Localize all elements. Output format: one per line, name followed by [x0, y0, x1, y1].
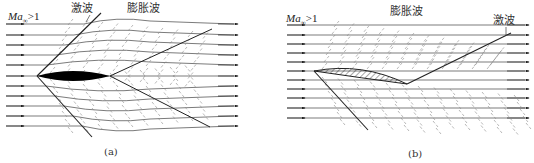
expansion-wave-dash — [143, 68, 148, 74]
expansion-wave-label-a: 膨胀波 — [127, 3, 160, 14]
expansion-wave-dash — [134, 51, 139, 57]
expansion-wave-dash — [386, 83, 391, 89]
expansion-wave-dash — [194, 90, 199, 96]
expansion-wave-dash — [424, 100, 429, 106]
expansion-wave-dash — [68, 127, 73, 133]
streamline — [6, 116, 234, 121]
expansion-wave-dash — [349, 23, 354, 29]
expansion-wave-dash — [104, 48, 109, 54]
streamline — [6, 106, 234, 111]
expansion-wave-dash — [173, 117, 178, 123]
expansion-wave-dash — [86, 54, 91, 60]
expansion-wave-dash — [86, 92, 91, 98]
expansion-wave-dash — [116, 89, 121, 95]
expansion-wave-dash — [173, 30, 178, 36]
expansion-wave-dash — [394, 31, 399, 37]
expansion-wave-dash — [158, 70, 163, 76]
expansion-wave-dash — [200, 41, 205, 47]
expansion-wave-dash — [125, 72, 130, 78]
expansion-wave-dash — [466, 91, 471, 97]
expansion-wave-dash — [203, 114, 208, 120]
expansion-wave-dash — [411, 106, 416, 112]
expansion-wave-dash — [188, 74, 193, 80]
expansion-wave-dash — [191, 65, 196, 71]
expansion-wave-dash — [478, 54, 483, 60]
expansion-wave-dash — [382, 110, 387, 116]
expansion-wave-dash — [449, 123, 454, 129]
expansion-wave-dash — [155, 110, 160, 116]
expansion-wave-dash — [113, 24, 118, 30]
expansion-wave-dash — [140, 70, 145, 76]
expansion-wave-dash — [137, 43, 142, 49]
expansion-wave-dash — [437, 95, 442, 101]
expansion-wave-dash — [430, 114, 435, 120]
expansion-wave-dash — [401, 53, 406, 59]
expansion-wave-dash — [475, 112, 480, 118]
expansion-wave-dash — [446, 55, 451, 61]
expansion-wave-dash — [71, 53, 76, 59]
expansion-wave-dash — [510, 122, 515, 128]
expansion-wave-dash — [379, 28, 384, 34]
expansion-wave-dash — [98, 83, 103, 89]
expansion-wave-dash — [328, 42, 333, 48]
expansion-wave-label-b: 膨胀波 — [390, 6, 423, 17]
expansion-wave-dash — [402, 85, 407, 91]
expansion-wave-dash — [128, 80, 133, 86]
expansion-wave-dash — [443, 109, 448, 115]
expansion-wave-dash — [125, 33, 130, 39]
expansion-boundary-lower — [110, 76, 210, 127]
expansion-wave-dash — [366, 108, 371, 114]
expansion-wave-dash — [143, 120, 148, 126]
streamline — [6, 126, 234, 131]
expansion-wave-dash — [331, 98, 336, 104]
expansion-wave-dash — [344, 93, 349, 99]
expansion-wave-dash — [326, 49, 331, 55]
expansion-wave-dash — [467, 46, 472, 52]
expansion-wave-dash — [140, 35, 145, 41]
expansion-wave-dash — [155, 36, 160, 42]
expansion-wave-dash — [379, 103, 384, 109]
expansion-wave-dash — [385, 117, 390, 123]
expansion-wave-dash — [164, 93, 169, 99]
expansion-wave-dash — [322, 63, 327, 69]
panel-a-symmetric-airfoil: Ma∞>1 激波 膨胀波 (a) — [0, 0, 267, 163]
expansion-wave-dash — [520, 109, 525, 115]
expansion-wave-dash — [440, 102, 445, 108]
expansion-wave-dash — [110, 115, 115, 121]
diagram-a-svg — [0, 0, 267, 163]
expansion-wave-dash — [480, 51, 485, 57]
expansion-wave-dash — [324, 56, 329, 62]
expansion-wave-dash — [360, 94, 365, 100]
expansion-wave-dash — [134, 96, 139, 102]
expansion-wave-dash — [469, 43, 474, 49]
expansion-wave-dash — [356, 51, 361, 57]
expansion-wave-dash — [407, 38, 412, 44]
expansion-wave-dash — [92, 108, 97, 114]
expansion-wave-dash — [367, 63, 372, 69]
expansion-wave-dash — [494, 120, 499, 126]
expansion-wave-dash — [472, 105, 477, 111]
expansion-wave-dash — [68, 86, 73, 92]
expansion-wave-dash — [382, 63, 387, 69]
expansion-wave-dash — [526, 123, 531, 129]
expansion-wave-dash — [488, 106, 493, 112]
expansion-wave-dash — [352, 63, 357, 69]
expansion-wave-dash — [392, 36, 397, 42]
caption-a: (a) — [104, 146, 118, 157]
expansion-wave-dash — [434, 88, 439, 94]
expansion-wave-dash — [140, 76, 145, 82]
expansion-wave-dash — [517, 102, 522, 108]
expansion-wave-dash — [405, 92, 410, 98]
expansion-wave-dash — [188, 73, 193, 79]
expansion-wave-dash — [474, 60, 479, 66]
expansion-wave-dash — [454, 40, 459, 46]
expansion-wave-dash — [328, 91, 333, 97]
expansion-wave-dash — [143, 78, 148, 84]
expansion-wave-dash — [179, 55, 184, 61]
expansion-wave-dash — [113, 81, 118, 87]
expansion-wave-dash — [83, 84, 88, 90]
mach-label-a: Ma∞>1 — [8, 11, 39, 25]
expansion-wave-dash — [77, 110, 82, 116]
mach-label-b: Ma∞>1 — [286, 13, 317, 27]
expansion-wave-dash — [191, 82, 196, 88]
